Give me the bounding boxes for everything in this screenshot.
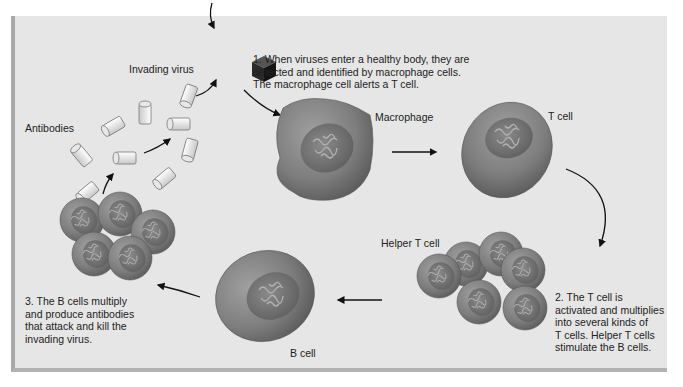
step-1-line-2: detected and identified by macrophage ce… [253, 66, 469, 79]
label-macrophage: Macrophage [375, 111, 433, 123]
b-cell-cluster [60, 192, 175, 280]
label-antibodies: Antibodies [25, 122, 74, 134]
step-3-line-3: that attack and kill the [25, 320, 134, 333]
step-1-caption: 1. When viruses enter a healthy body, th… [253, 53, 469, 91]
step-3-line-4: invading virus. [25, 333, 134, 346]
step-2-line-5: stimulate the B cells. [555, 341, 664, 354]
step-3-line-2: and produce antibodies [25, 308, 134, 321]
label-invading-virus: Invading virus [129, 63, 194, 75]
step-2-line-1: 2. The T cell is [555, 291, 664, 304]
step-1-line-1: 1. When viruses enter a healthy body, th… [253, 53, 469, 66]
step-2-line-2: activated and multiplies [555, 304, 664, 317]
label-helper-t-cell: Helper T cell [381, 237, 440, 249]
step-3-caption: 3. The B cells multiply and produce anti… [25, 295, 134, 345]
b-cell [203, 237, 328, 356]
antibody-group [69, 84, 198, 205]
step-1-line-3: The macrophage cell alerts a T cell. [253, 78, 469, 91]
step-3-line-1: 3. The B cells multiply [25, 295, 134, 308]
t-cell [444, 86, 569, 215]
step-2-line-4: T cells. Helper T cells [555, 329, 664, 342]
label-t-cell: T cell [548, 110, 573, 122]
label-b-cell: B cell [290, 347, 316, 359]
step-2-caption: 2. The T cell is activated and multiplie… [555, 291, 664, 354]
macrophage-cell [277, 98, 373, 200]
step-2-line-3: into several kinds of [555, 316, 664, 329]
